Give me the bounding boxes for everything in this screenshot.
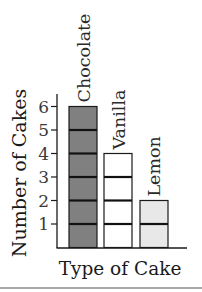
bar-chocolate	[69, 107, 97, 248]
category-label-vanilla: Vanilla	[109, 90, 129, 151]
y-axis-label: Number of Cakes	[8, 89, 30, 257]
y-axis-ticks: 123456	[38, 97, 57, 235]
x-axis-title: Type of Cake	[59, 258, 182, 279]
y-tick-label: 3	[38, 167, 49, 187]
y-tick-label: 1	[38, 214, 49, 234]
bar-lemon	[140, 201, 168, 248]
bar-vanilla	[104, 154, 132, 248]
y-axis-title: Number of Cakes	[8, 89, 30, 257]
bottom-divider	[0, 287, 202, 289]
y-tick-label: 6	[38, 97, 49, 117]
y-tick-label: 4	[38, 144, 49, 164]
category-label-lemon: Lemon	[144, 136, 164, 196]
y-tick-label: 2	[38, 191, 49, 211]
bar-chart: Number of Cakes 123456 ChocolateVanillaL…	[0, 0, 202, 292]
category-label-chocolate: Chocolate	[74, 14, 94, 103]
y-tick-label: 5	[38, 120, 49, 140]
